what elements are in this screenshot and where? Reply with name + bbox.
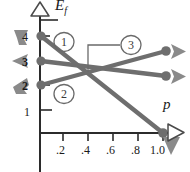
x-tick-label-1.0: 1.0 — [150, 143, 165, 158]
callout-label-3: 3 — [125, 38, 137, 53]
marker-series-1-end — [158, 128, 168, 138]
x-tick-label-0.6: .6 — [106, 143, 115, 158]
y-axis-label: Ef — [55, 0, 67, 16]
x-tick-label-0.8: .8 — [131, 143, 140, 158]
x-tick-label-0.4: .4 — [81, 143, 90, 158]
y-axis-label-subscript: f — [64, 5, 67, 16]
marker-series-3-start — [36, 56, 45, 65]
y-tick-label-3: 3 — [22, 55, 28, 70]
y-tick-label-1: 1 — [24, 105, 30, 120]
callout-label-1: 1 — [58, 35, 70, 50]
marker-series-2-start — [36, 80, 45, 89]
marker-series-1-start — [36, 31, 45, 40]
y-axis-label-main: E — [55, 0, 64, 13]
marker-series-3-end — [161, 71, 171, 81]
x-tick-label-0.2: .2 — [56, 143, 65, 158]
x-axis-label: p — [163, 96, 171, 113]
callout-label-2: 2 — [58, 87, 70, 102]
marker-series-2-end — [161, 46, 171, 56]
y-tick-label-2: 2 — [22, 79, 28, 94]
y-tick-label-4: 4 — [22, 30, 28, 45]
